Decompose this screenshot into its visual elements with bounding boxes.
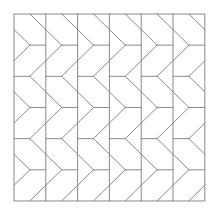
chevron-tiling-diagram	[0, 0, 218, 218]
